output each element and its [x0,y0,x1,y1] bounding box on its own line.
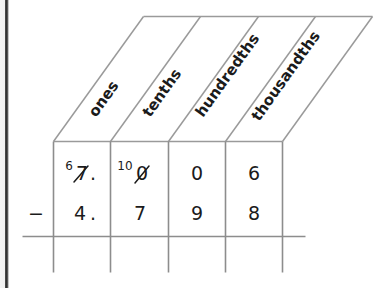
header-slant-3 [226,17,316,142]
regroup-mark-ones: 6 [65,159,73,173]
subtrahend-digit-tenths: 7 [134,202,146,224]
worksheet-canvas: ones tenths hundredths thousandths − 6 7… [0,0,380,288]
minus-operator: − [28,202,44,224]
minuend-digit-thousandths: 6 [248,162,260,184]
subtrahend-decimal-point-ones: . [90,202,96,224]
minuend-decimal-point-ones: . [90,162,96,184]
header-labels: ones tenths hundredths thousandths [85,27,324,124]
row-minuend: 6 7 . 10 0 0 6 [65,159,260,184]
subtrahend-digit-thousandths: 8 [248,202,260,224]
header-slant-4 [283,17,373,142]
header-slant-0 [54,17,144,142]
header-label-ones: ones [85,77,123,120]
header-slant-1 [111,17,201,142]
place-value-grid: ones tenths hundredths thousandths − 6 7… [0,0,380,288]
row-subtrahend: 4 . 7 9 8 [74,202,260,224]
regroup-mark-tenths: 10 [117,159,132,173]
subtrahend-digit-hundredths: 9 [191,202,203,224]
subtrahend-digit-ones: 4 [74,202,86,224]
minuend-digit-hundredths: 0 [191,162,203,184]
